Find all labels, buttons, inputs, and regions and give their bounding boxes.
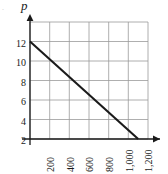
- x-tick-label-1200: 1,200: [144, 150, 154, 173]
- x-tick-label-400: 400: [66, 157, 76, 172]
- x-axis-arrowhead: [153, 136, 160, 143]
- chart-figure: . p: [0, 0, 168, 174]
- y-tick-label-10: 10: [4, 58, 26, 68]
- y-tick-label-4: 4: [4, 117, 26, 127]
- x-tick-label-200: 200: [46, 157, 56, 172]
- y-tick-label-12: 12: [4, 39, 26, 49]
- y-tick-label-8: 8: [4, 78, 26, 88]
- demand-line: [30, 42, 138, 140]
- x-tick-label-800: 800: [105, 157, 115, 172]
- y-tick-label-6: 6: [4, 97, 26, 107]
- y-axis-arrowhead: [27, 14, 34, 21]
- x-tick-label-1000: 1,000: [125, 150, 135, 173]
- y-tick-label-2: 2: [4, 136, 26, 146]
- x-tick-label-600: 600: [85, 157, 95, 172]
